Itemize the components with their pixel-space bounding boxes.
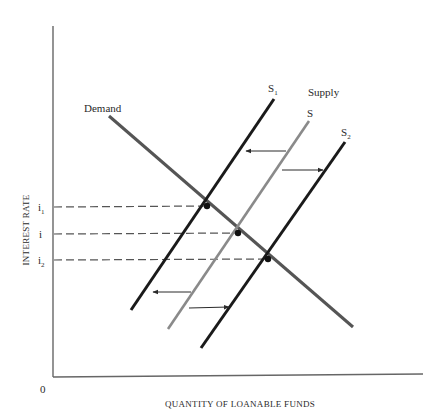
rate-label-i: i [39,228,42,240]
rate-label-i1: i1 [38,201,45,216]
supply-group-label: Supply [308,86,340,98]
x-axis-label: QUANTITY OF LOANABLE FUNDS [165,399,315,409]
shift-arrow-right-lower [189,307,229,308]
demand-curve [109,116,353,327]
dashed-rate-i2 [54,259,268,260]
equilibrium-point-i2 [265,256,271,262]
dashed-rate-i1 [54,206,207,207]
demand-label: Demand [84,102,122,114]
rate-label-i2: i2 [38,254,45,269]
label-s: S [307,107,313,119]
equilibrium-point-i [235,230,241,236]
y-axis-label: INTEREST RATE [21,194,31,265]
origin-label: 0 [40,383,46,395]
equilibrium-point-i1 [204,203,210,209]
label-s1: S1 [268,82,278,97]
loanable-funds-diagram: INTEREST RATE QUANTITY OF LOANABLE FUNDS… [0,0,443,417]
label-s2: S2 [341,126,351,141]
x-axis [53,374,423,377]
dashed-rate-i [54,233,238,234]
